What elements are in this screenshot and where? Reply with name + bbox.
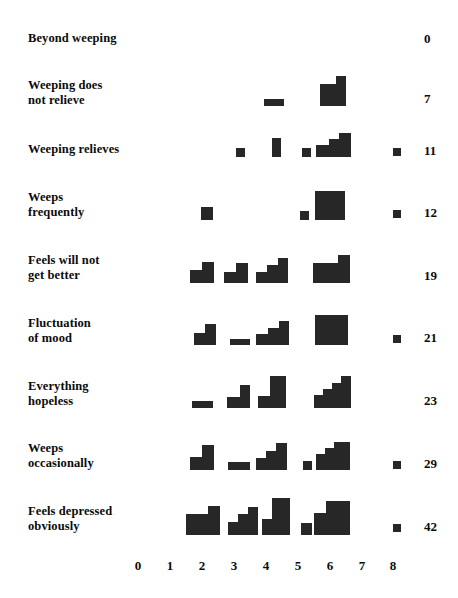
data-block [256,334,268,345]
x-axis-tick: 3 [226,558,242,574]
data-block [272,138,281,157]
data-block [268,328,279,345]
data-block [316,145,329,157]
data-block [230,339,250,345]
row-label: Fluctuation of mood [28,316,91,346]
row-total-value: 21 [424,330,437,346]
data-block [208,506,220,535]
data-block [276,443,287,470]
x-axis-tick: 0 [130,558,146,574]
data-block [262,519,272,535]
data-block [332,383,341,408]
x-axis-tick: 8 [385,558,401,574]
row-total-marker [393,210,401,218]
data-block [315,315,348,345]
data-block [326,501,350,535]
row-total-marker [393,335,401,343]
data-block [228,522,238,535]
data-block [270,376,286,408]
row-label: Feels will not get better [28,253,100,283]
row-label: Weeping does not relieve [28,78,102,108]
data-block [303,461,312,470]
data-block [190,457,202,470]
data-block [238,514,248,535]
data-block [314,513,326,535]
data-block [190,270,202,283]
x-axis-tick: 6 [322,558,338,574]
data-block [266,451,276,470]
data-block [338,255,350,283]
row-label: Beyond weeping [28,31,117,46]
x-axis-tick: 7 [354,558,370,574]
data-block [329,139,339,157]
data-block [201,207,213,220]
data-block [258,396,270,408]
data-block [279,321,289,345]
row-total-value: 29 [424,456,437,472]
x-axis-tick: 5 [290,558,306,574]
row-total-value: 12 [424,205,437,221]
data-block [300,211,309,220]
data-block [323,389,332,408]
data-block [202,262,214,283]
data-block [186,514,208,535]
data-block [227,397,240,408]
row-total-value: 7 [424,91,431,107]
x-axis-tick: 2 [194,558,210,574]
data-block [248,507,258,535]
row-label: Weeps frequently [28,190,84,220]
row-total-marker [393,524,401,532]
data-block [256,272,267,283]
row-total-value: 11 [424,143,436,159]
data-block [224,272,236,283]
data-block [205,324,216,345]
x-axis-tick: 1 [162,558,178,574]
data-block [313,263,338,283]
data-block [278,258,288,283]
row-total-value: 19 [424,268,437,284]
data-block [228,462,250,470]
data-block [267,265,278,283]
data-block [302,148,311,157]
row-label: Weeps occasionally [28,441,94,471]
row-total-value: 23 [424,393,437,409]
row-label: Everything hopeless [28,379,89,409]
row-total-value: 42 [424,519,437,535]
row-total-marker [393,461,401,469]
data-block [192,401,213,408]
data-block [264,99,284,106]
block-histogram-chart: Beyond weeping0Weeping does not relieve7… [0,0,458,598]
data-block [236,148,245,157]
data-block [320,84,336,106]
data-block [336,76,346,106]
x-axis-tick: 4 [258,558,274,574]
data-block [240,385,250,408]
data-block [301,523,312,535]
data-block [272,498,290,535]
data-block [256,458,266,470]
data-block [202,445,214,470]
data-block [334,442,350,470]
row-total-value: 0 [424,31,431,47]
row-label: Feels depressed obviously [28,504,112,534]
plot-area: Beyond weeping0Weeping does not relieve7… [0,0,458,598]
data-block [316,454,325,470]
data-block [325,448,334,470]
data-block [315,191,345,220]
data-block [339,133,351,157]
row-label: Weeping relieves [28,142,119,157]
data-block [314,395,323,408]
row-total-marker [393,148,401,156]
data-block [236,263,248,283]
data-block [194,333,205,345]
data-block [341,376,351,408]
